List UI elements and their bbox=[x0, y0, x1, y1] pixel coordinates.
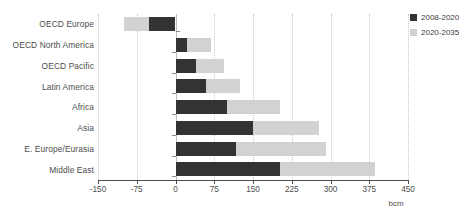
x-axis-tick-label: 375 bbox=[362, 185, 376, 195]
y-axis-label: OECD Europe bbox=[0, 19, 94, 29]
bar-segment bbox=[176, 59, 196, 73]
legend-swatch-icon bbox=[410, 14, 417, 21]
y-axis-label: OECD Pacific bbox=[0, 61, 94, 71]
row-baseline-tick bbox=[176, 31, 180, 32]
legend-label: 2020-2035 bbox=[421, 28, 459, 37]
row-baseline-tick bbox=[172, 156, 176, 157]
x-axis-unit-label: bcm bbox=[388, 199, 403, 209]
bar-segment bbox=[227, 100, 280, 114]
y-axis-label: Asia bbox=[0, 123, 94, 133]
legend-label: 2008-2020 bbox=[421, 13, 459, 22]
bar-segment bbox=[176, 142, 237, 156]
y-axis-category-labels: OECD EuropeOECD North AmericaOECD Pacifi… bbox=[0, 14, 98, 180]
row-baseline-tick bbox=[172, 93, 176, 94]
bar-segment bbox=[176, 121, 254, 135]
y-axis-label: Africa bbox=[0, 102, 94, 112]
legend-swatch-icon bbox=[410, 29, 417, 36]
chart-legend: 2008-20202020-2035 bbox=[410, 11, 474, 41]
bar-row bbox=[98, 97, 408, 118]
row-baseline-tick bbox=[172, 114, 176, 115]
bar-segment bbox=[176, 100, 228, 114]
x-axis-tick-label: -75 bbox=[131, 185, 143, 195]
x-axis-tick bbox=[331, 180, 332, 184]
bar-segment bbox=[253, 121, 319, 135]
legend-item[interactable]: 2020-2035 bbox=[410, 26, 474, 39]
bar-segment bbox=[236, 142, 326, 156]
x-axis-tick-label: 75 bbox=[210, 185, 219, 195]
x-axis-tick-label: -150 bbox=[90, 185, 106, 195]
x-axis-tick-label: 0 bbox=[173, 185, 178, 195]
row-baseline-tick bbox=[172, 135, 176, 136]
x-axis-tick bbox=[369, 180, 370, 184]
x-axis-tick-label: 225 bbox=[285, 185, 299, 195]
gridline bbox=[408, 14, 409, 180]
bar-segment bbox=[196, 59, 224, 73]
x-axis-tick-label: 450 bbox=[401, 185, 415, 195]
row-baseline-tick bbox=[172, 176, 176, 177]
x-axis-tick-label: 150 bbox=[246, 185, 260, 195]
bar-segment bbox=[149, 17, 175, 31]
bar-row bbox=[98, 118, 408, 139]
x-axis-tick bbox=[98, 180, 99, 184]
x-axis-tick bbox=[292, 180, 293, 184]
y-axis-label: Middle East bbox=[0, 165, 94, 175]
bar-row bbox=[98, 35, 408, 56]
y-axis-label: OECD North America bbox=[0, 40, 94, 50]
bar-chart: OECD EuropeOECD North AmericaOECD Pacifi… bbox=[0, 0, 474, 220]
legend-item[interactable]: 2008-2020 bbox=[410, 11, 474, 24]
bar-row bbox=[98, 76, 408, 97]
bar-row bbox=[98, 14, 408, 35]
bar-row bbox=[98, 139, 408, 160]
y-axis-label: E. Europe/Eurasia bbox=[0, 144, 94, 154]
x-axis-tick bbox=[137, 180, 138, 184]
x-axis-tick bbox=[408, 180, 409, 184]
bar-segment bbox=[176, 162, 280, 176]
bar-row bbox=[98, 159, 408, 180]
x-axis-tick bbox=[214, 180, 215, 184]
plot-area bbox=[98, 14, 408, 180]
bar-segment bbox=[124, 17, 149, 31]
bar-segment bbox=[176, 38, 187, 52]
row-baseline-tick bbox=[172, 52, 176, 53]
bar-row bbox=[98, 56, 408, 77]
bar-segment bbox=[206, 79, 240, 93]
row-baseline-tick bbox=[172, 73, 176, 74]
y-axis-label: Latin America bbox=[0, 82, 94, 92]
bar-segment bbox=[280, 162, 375, 176]
x-axis-tick-label: 300 bbox=[324, 185, 338, 195]
bar-segment bbox=[176, 79, 206, 93]
x-axis-tick bbox=[253, 180, 254, 184]
x-axis-tick bbox=[176, 180, 177, 184]
bar-segment bbox=[187, 38, 211, 52]
